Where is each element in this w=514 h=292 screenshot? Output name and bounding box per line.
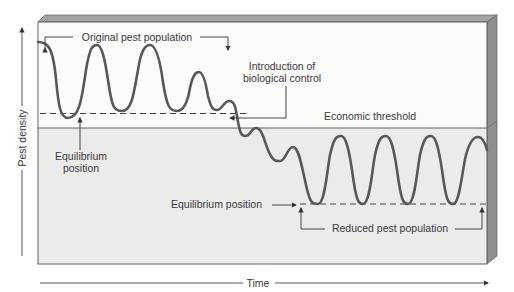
original-population-label: Original pest population — [82, 31, 192, 43]
lower-region — [38, 128, 487, 264]
panel-top-bevel — [38, 15, 497, 22]
upper-equilibrium-label-line2: position — [63, 162, 99, 174]
pest-population-diagram: Original pest population Introduction of… — [0, 0, 514, 292]
introduction-label-line1: Introduction of — [249, 60, 316, 72]
reduced-population-label: Reduced pest population — [332, 222, 448, 234]
lower-equilibrium-label: Equilibrium position — [171, 198, 262, 210]
x-axis-label: Time — [247, 277, 270, 289]
upper-equilibrium-label-line1: Equilibrium — [55, 150, 107, 162]
panel-side-bevel — [487, 15, 497, 264]
economic-threshold-label: Economic threshold — [324, 110, 416, 122]
y-axis-label: Pest density — [16, 109, 28, 167]
introduction-label-line2: biological control — [243, 72, 321, 84]
